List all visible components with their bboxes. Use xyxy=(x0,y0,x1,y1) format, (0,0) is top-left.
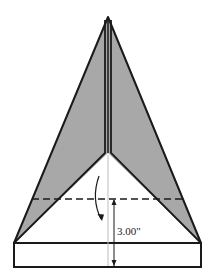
dimension-label: 3.00" xyxy=(117,225,141,237)
paper-airplane-diagram: 3.00" xyxy=(0,0,215,280)
